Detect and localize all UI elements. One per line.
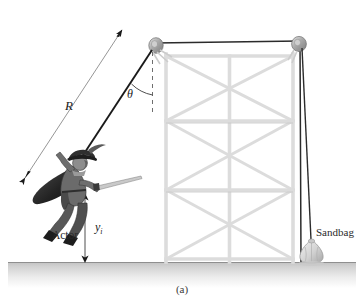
- sandbag-shape: [299, 239, 325, 266]
- label-angle: θ: [127, 87, 133, 101]
- label-actor: Actor: [52, 229, 78, 241]
- label-height-subscript: i: [100, 227, 102, 236]
- figure-canvas: R θ yi Actor Sandbag: [0, 0, 364, 307]
- physics-figure: R θ yi Actor Sandbag: [0, 0, 364, 307]
- sandbag-rope: [302, 48, 311, 240]
- label-rope-length: R: [64, 98, 73, 113]
- label-sandbag: Sandbag: [316, 226, 354, 238]
- actor-figure: [33, 144, 142, 246]
- label-height: yi: [94, 220, 103, 236]
- figure-caption: (a): [0, 283, 364, 295]
- angle-arc: [132, 84, 153, 95]
- scaffold-tower: [155, 41, 301, 262]
